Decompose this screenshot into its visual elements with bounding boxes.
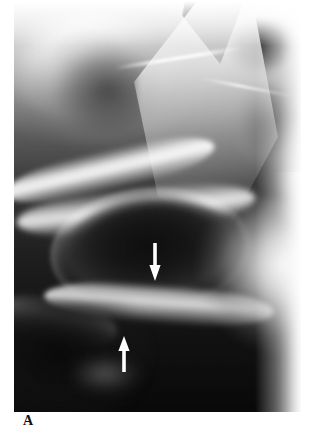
soft-tissue-right-region	[254, 122, 301, 252]
figure-label: A	[23, 414, 33, 428]
soft-tissue-lower-blob	[70, 354, 148, 398]
figure-panel: A	[0, 0, 331, 432]
radiograph-image	[14, 2, 301, 412]
